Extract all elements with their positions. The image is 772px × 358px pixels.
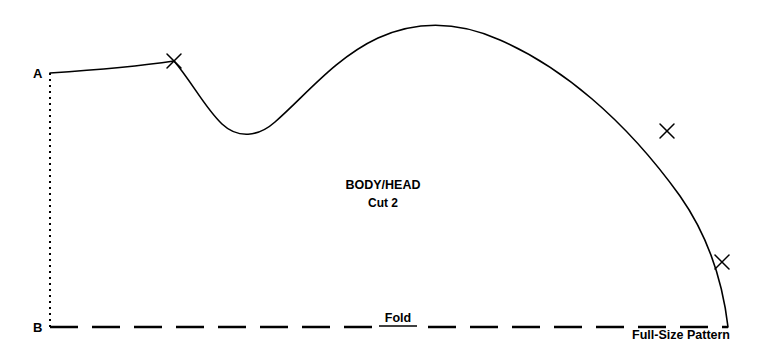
point-b-label: B [33, 320, 42, 335]
point-a-label: A [33, 66, 43, 81]
pattern-sheet: A B BODY/HEAD Cut 2 Fold Full-Size Patte… [0, 0, 772, 358]
fold-label: Fold [385, 311, 411, 325]
size-note-label: Full-Size Pattern [632, 328, 730, 342]
cut-quantity-label: Cut 2 [368, 196, 398, 210]
piece-name-label: BODY/HEAD [345, 178, 420, 192]
pattern-diagram: A B BODY/HEAD Cut 2 Fold Full-Size Patte… [0, 0, 772, 358]
